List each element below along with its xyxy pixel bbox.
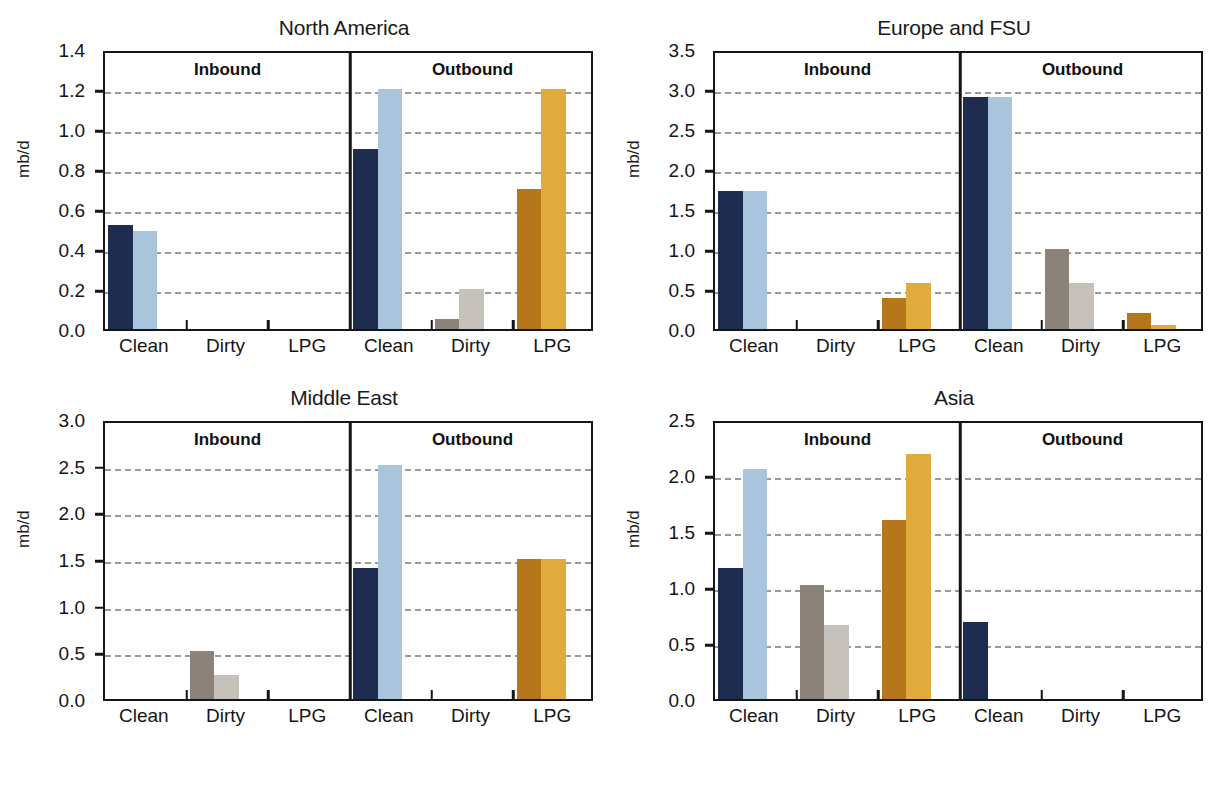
x-tick-mark [1122, 690, 1125, 699]
y-tick-label: 2.0 [669, 160, 695, 182]
panel-title: Middle East [0, 386, 610, 410]
x-tick-label: Clean [119, 705, 169, 727]
y-tick-label: 1.0 [669, 578, 695, 600]
y-tick-label: 0.0 [59, 320, 85, 342]
x-tick-mark [512, 690, 515, 699]
x-tick-label: Dirty [1061, 705, 1100, 727]
chart-grid: North Americamb/d0.00.20.40.60.81.01.21.… [0, 10, 1220, 750]
y-tick-label: 0.0 [59, 690, 85, 712]
y-tick-label: 2.5 [59, 457, 85, 479]
x-tick-mark [795, 320, 798, 329]
bar [459, 289, 484, 329]
plot-area: InboundOutbound [713, 51, 1203, 331]
y-tick-label: 1.0 [59, 597, 85, 619]
plot-frame: InboundOutbound [103, 51, 593, 331]
y-tick-label: 0.5 [59, 643, 85, 665]
bar [988, 97, 1013, 329]
x-axis-labels: CleanDirtyLPGCleanDirtyLPG [103, 705, 593, 735]
x-tick-label: Dirty [451, 335, 490, 357]
bar [108, 225, 133, 329]
y-tick-label: 3.0 [669, 80, 695, 102]
y-tick-label: 2.5 [669, 120, 695, 142]
y-axis-ticks: 0.00.20.40.60.81.01.21.4 [0, 51, 95, 331]
bar [541, 89, 566, 329]
bar [541, 559, 566, 699]
x-tick-mark [1040, 690, 1043, 699]
y-tick-label: 3.0 [59, 410, 85, 432]
x-tick-label: Dirty [1061, 335, 1100, 357]
panel-title: Europe and FSU [610, 16, 1220, 40]
y-tick-label: 3.5 [669, 40, 695, 62]
x-tick-mark [430, 690, 433, 699]
section-divider [959, 53, 962, 329]
x-tick-mark [430, 320, 433, 329]
plot-frame: InboundOutbound [713, 51, 1203, 331]
y-tick-label: 0.4 [59, 240, 85, 262]
y-tick-label: 0.0 [669, 690, 695, 712]
x-tick-label: Dirty [451, 705, 490, 727]
panel-title: Asia [610, 386, 1220, 410]
bar [800, 585, 825, 699]
y-tick-label: 0.5 [669, 280, 695, 302]
section-label-inbound: Inbound [194, 60, 261, 80]
y-tick-label: 1.5 [669, 200, 695, 222]
section-label-inbound: Inbound [804, 60, 871, 80]
y-tick-label: 2.0 [669, 466, 695, 488]
plot-area: InboundOutbound [713, 421, 1203, 701]
chart-panel: Asiamb/d0.00.51.01.52.02.5InboundOutboun… [610, 380, 1220, 750]
y-axis-ticks: 0.00.51.01.52.02.53.0 [0, 421, 95, 701]
x-tick-mark [185, 320, 188, 329]
x-tick-mark [267, 320, 270, 329]
bar [517, 559, 542, 699]
panel-title: North America [0, 16, 610, 40]
bar [1069, 283, 1094, 329]
x-tick-label: LPG [533, 705, 571, 727]
x-tick-label: LPG [533, 335, 571, 357]
cut-off-caption-text [0, 752, 1220, 786]
bar [718, 568, 743, 699]
bar [1045, 249, 1070, 329]
section-label-outbound: Outbound [1042, 430, 1123, 450]
section-label-outbound: Outbound [432, 60, 513, 80]
x-tick-mark [512, 320, 515, 329]
chart-panel: Middle Eastmb/d0.00.51.01.52.02.53.0Inbo… [0, 380, 610, 750]
bar [882, 298, 907, 329]
x-tick-mark [795, 690, 798, 699]
plot-area: InboundOutbound [103, 421, 593, 701]
x-tick-label: LPG [1143, 335, 1181, 357]
x-tick-mark [877, 320, 880, 329]
x-tick-label: LPG [1143, 705, 1181, 727]
bar [353, 568, 378, 699]
x-tick-label: Clean [364, 335, 414, 357]
x-tick-label: LPG [288, 335, 326, 357]
x-tick-label: Dirty [206, 705, 245, 727]
plot-frame: InboundOutbound [103, 421, 593, 701]
bar [906, 283, 931, 329]
x-tick-label: LPG [898, 705, 936, 727]
x-tick-label: Dirty [816, 335, 855, 357]
y-tick-label: 0.2 [59, 280, 85, 302]
y-tick-label: 1.0 [669, 240, 695, 262]
y-tick-label: 0.0 [669, 320, 695, 342]
y-tick-label: 1.4 [59, 40, 85, 62]
figure-page: North Americamb/d0.00.20.40.60.81.01.21.… [0, 0, 1220, 788]
bar [882, 520, 907, 699]
x-tick-label: Clean [364, 705, 414, 727]
y-tick-label: 0.5 [669, 634, 695, 656]
x-tick-label: Clean [119, 335, 169, 357]
bar [963, 97, 988, 329]
x-tick-label: Dirty [816, 705, 855, 727]
y-tick-label: 0.8 [59, 160, 85, 182]
section-label-outbound: Outbound [1042, 60, 1123, 80]
cut-off-header-text [0, 0, 1220, 2]
section-divider [349, 53, 352, 329]
bar [133, 231, 158, 329]
bar [824, 625, 849, 699]
bar [963, 622, 988, 699]
section-label-inbound: Inbound [194, 430, 261, 450]
y-axis-ticks: 0.00.51.01.52.02.53.03.5 [610, 51, 705, 331]
x-tick-label: Clean [729, 705, 779, 727]
y-tick-label: 2.5 [669, 410, 695, 432]
chart-panel: Europe and FSUmb/d0.00.51.01.52.02.53.03… [610, 10, 1220, 380]
x-tick-label: LPG [898, 335, 936, 357]
